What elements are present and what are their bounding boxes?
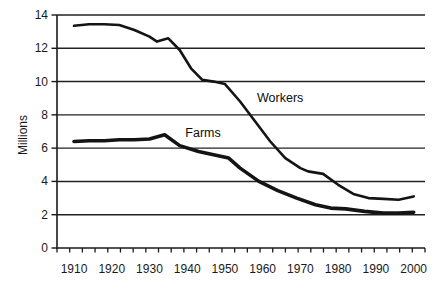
- x-tick-label-1930: 1930: [136, 262, 163, 276]
- y-tick-label-14: 14: [35, 8, 49, 22]
- x-tick-label-1910: 1910: [61, 262, 88, 276]
- y-tick-label-6: 6: [41, 141, 48, 155]
- y-tick-label-2: 2: [41, 208, 48, 222]
- y-tick-label-10: 10: [35, 75, 49, 89]
- x-tick-label-1960: 1960: [249, 262, 276, 276]
- y-tick-label-8: 8: [41, 108, 48, 122]
- series-label-farms: Farms: [185, 126, 220, 140]
- y-axis-title: Millions: [16, 114, 30, 154]
- x-tick-label-1950: 1950: [212, 262, 239, 276]
- series-label-workers: Workers: [257, 91, 303, 105]
- x-tick-label-1970: 1970: [287, 262, 314, 276]
- x-tick-label-1920: 1920: [98, 262, 125, 276]
- series-line-workers: [74, 24, 414, 200]
- series-line-farms: [74, 135, 414, 213]
- x-tick-label-1990: 1990: [363, 262, 390, 276]
- x-tick-label-1940: 1940: [174, 262, 201, 276]
- y-tick-label-4: 4: [41, 174, 48, 188]
- chart-figure: 0246810121419101920193019401950196019701…: [0, 0, 438, 289]
- y-tick-label-12: 12: [35, 41, 49, 55]
- x-tick-label-2000: 2000: [400, 262, 427, 276]
- x-tick-label-1980: 1980: [325, 262, 352, 276]
- farms-workers-line-chart: 0246810121419101920193019401950196019701…: [0, 0, 438, 289]
- y-tick-label-0: 0: [41, 241, 48, 255]
